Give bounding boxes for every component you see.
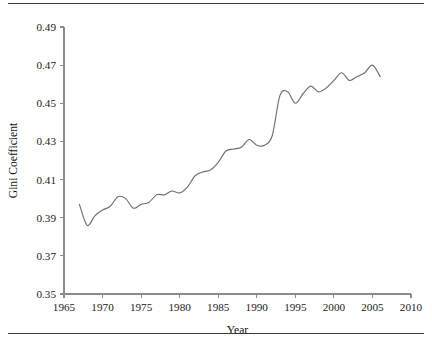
x-tick-label: 1965 [53,301,76,313]
y-tick-label: 0.39 [36,212,56,224]
data-line-gini-coefficient [79,65,380,226]
y-axis: 0.350.370.390.410.430.450.470.49 [36,21,64,300]
top-divider-rule [8,3,424,4]
line-chart: 0.350.370.390.410.430.450.470.49 1965197… [0,8,432,328]
x-tick-label: 1980 [168,301,191,313]
x-tick-label: 1970 [91,301,114,313]
x-axis: 1965197019751980198519901995200020052010 [53,294,423,313]
y-tick-label: 0.37 [36,250,56,262]
y-axis-title: Gini Coefficient [7,122,20,198]
x-tick-label: 2005 [361,301,384,313]
y-tick-label: 0.47 [36,59,56,71]
y-tick-label: 0.45 [36,97,56,109]
y-tick-label: 0.43 [36,135,56,147]
x-tick-label: 2010 [400,301,423,313]
x-tick-label: 1985 [207,301,230,313]
figure-container: 0.350.370.390.410.430.450.470.49 1965197… [0,0,432,345]
x-axis-title: Year [227,324,249,337]
data-series-group [79,65,380,226]
y-tick-label: 0.41 [36,174,56,186]
x-tick-label: 1990 [246,301,269,313]
y-tick-label: 0.35 [36,288,56,300]
chart-plot-wrapper: 0.350.370.390.410.430.450.470.49 1965197… [0,8,432,328]
x-tick-label: 1995 [284,301,307,313]
y-tick-label: 0.49 [36,21,56,33]
x-tick-label: 2000 [323,301,346,313]
x-tick-label: 1975 [130,301,153,313]
bottom-divider-rule [8,333,424,334]
